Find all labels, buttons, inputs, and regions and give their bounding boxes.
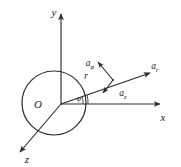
vector-label-a-z: az bbox=[119, 88, 127, 100]
axis-z bbox=[20, 104, 61, 152]
origin-label: O bbox=[34, 98, 42, 110]
vector-label-a-phi: aφ bbox=[86, 58, 95, 70]
svg-text:aφ: aφ bbox=[86, 58, 95, 70]
vector-a-phi bbox=[98, 62, 113, 80]
svg-text:az: az bbox=[119, 88, 127, 100]
vector-label-a-r: ar bbox=[151, 61, 159, 73]
vector-a-z-subscript: z bbox=[123, 93, 127, 100]
figure-container: y x z O r φ aφ ar az bbox=[0, 0, 181, 167]
vector-a-phi-subscript: φ bbox=[91, 63, 95, 70]
radial-length-label: r bbox=[84, 70, 88, 81]
base-circle bbox=[22, 71, 86, 135]
svg-text:ar: ar bbox=[151, 61, 159, 73]
vector-a-r-subscript: r bbox=[156, 66, 159, 73]
field-point-marker bbox=[112, 79, 114, 81]
coordinate-diagram: y x z O r φ aφ ar az bbox=[0, 0, 181, 167]
angle-label-phi: φ bbox=[77, 94, 82, 103]
axis-label-x: x bbox=[160, 111, 166, 123]
axis-label-y: y bbox=[51, 6, 57, 18]
axis-label-z: z bbox=[24, 153, 30, 165]
